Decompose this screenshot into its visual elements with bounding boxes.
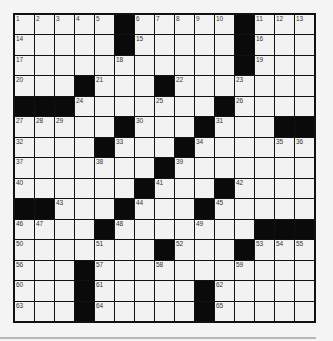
grid-cell[interactable] xyxy=(135,220,154,239)
grid-cell[interactable]: 2 xyxy=(35,15,54,34)
grid-cell[interactable]: 11 xyxy=(255,15,274,34)
grid-cell[interactable] xyxy=(115,281,134,300)
grid-cell[interactable] xyxy=(75,56,94,75)
grid-cell[interactable] xyxy=(215,261,234,280)
grid-cell[interactable] xyxy=(35,179,54,198)
grid-cell[interactable] xyxy=(275,76,294,95)
grid-cell[interactable] xyxy=(235,281,254,300)
grid-cell[interactable] xyxy=(255,261,274,280)
grid-cell[interactable] xyxy=(275,179,294,198)
grid-cell[interactable] xyxy=(155,199,174,218)
grid-cell[interactable]: 53 xyxy=(255,240,274,259)
grid-cell[interactable]: 41 xyxy=(155,179,174,198)
grid-cell[interactable] xyxy=(95,56,114,75)
grid-cell[interactable] xyxy=(295,35,314,54)
grid-cell[interactable] xyxy=(75,117,94,136)
grid-cell[interactable]: 50 xyxy=(15,240,34,259)
grid-cell[interactable] xyxy=(35,281,54,300)
grid-cell[interactable]: 34 xyxy=(195,138,214,157)
grid-cell[interactable] xyxy=(195,261,214,280)
grid-cell[interactable]: 15 xyxy=(135,35,154,54)
grid-cell[interactable]: 28 xyxy=(35,117,54,136)
grid-cell[interactable] xyxy=(175,302,194,321)
grid-cell[interactable] xyxy=(75,35,94,54)
grid-cell[interactable] xyxy=(155,138,174,157)
grid-cell[interactable] xyxy=(275,199,294,218)
grid-cell[interactable] xyxy=(295,302,314,321)
grid-cell[interactable] xyxy=(95,35,114,54)
grid-cell[interactable]: 26 xyxy=(235,97,254,116)
grid-cell[interactable]: 8 xyxy=(175,15,194,34)
grid-cell[interactable] xyxy=(195,76,214,95)
grid-cell[interactable] xyxy=(235,199,254,218)
grid-cell[interactable] xyxy=(115,97,134,116)
grid-cell[interactable] xyxy=(35,35,54,54)
grid-cell[interactable]: 30 xyxy=(135,117,154,136)
grid-cell[interactable]: 64 xyxy=(95,302,114,321)
grid-cell[interactable] xyxy=(175,199,194,218)
grid-cell[interactable] xyxy=(235,117,254,136)
grid-cell[interactable] xyxy=(115,76,134,95)
grid-cell[interactable] xyxy=(275,281,294,300)
grid-cell[interactable]: 19 xyxy=(255,56,274,75)
grid-cell[interactable] xyxy=(195,179,214,198)
grid-cell[interactable]: 18 xyxy=(115,56,134,75)
grid-cell[interactable]: 39 xyxy=(175,158,194,177)
grid-cell[interactable] xyxy=(155,302,174,321)
grid-cell[interactable] xyxy=(295,76,314,95)
grid-cell[interactable] xyxy=(255,158,274,177)
grid-cell[interactable] xyxy=(175,261,194,280)
grid-cell[interactable]: 63 xyxy=(15,302,34,321)
grid-cell[interactable]: 52 xyxy=(175,240,194,259)
grid-cell[interactable]: 40 xyxy=(15,179,34,198)
grid-cell[interactable]: 42 xyxy=(235,179,254,198)
grid-cell[interactable] xyxy=(215,220,234,239)
grid-cell[interactable]: 43 xyxy=(55,199,74,218)
grid-cell[interactable] xyxy=(195,240,214,259)
grid-cell[interactable]: 44 xyxy=(135,199,154,218)
grid-cell[interactable] xyxy=(255,117,274,136)
grid-cell[interactable] xyxy=(295,199,314,218)
grid-cell[interactable] xyxy=(255,138,274,157)
grid-cell[interactable] xyxy=(135,261,154,280)
grid-cell[interactable] xyxy=(135,281,154,300)
grid-cell[interactable]: 13 xyxy=(295,15,314,34)
grid-cell[interactable]: 37 xyxy=(15,158,34,177)
grid-cell[interactable] xyxy=(275,261,294,280)
grid-cell[interactable] xyxy=(55,261,74,280)
grid-cell[interactable]: 49 xyxy=(195,220,214,239)
grid-cell[interactable] xyxy=(255,179,274,198)
grid-cell[interactable] xyxy=(55,76,74,95)
grid-cell[interactable] xyxy=(55,240,74,259)
grid-cell[interactable] xyxy=(75,240,94,259)
grid-cell[interactable] xyxy=(155,56,174,75)
grid-cell[interactable] xyxy=(35,261,54,280)
grid-cell[interactable]: 32 xyxy=(15,138,34,157)
grid-cell[interactable] xyxy=(175,179,194,198)
grid-cell[interactable] xyxy=(95,199,114,218)
grid-cell[interactable]: 27 xyxy=(15,117,34,136)
grid-cell[interactable]: 5 xyxy=(95,15,114,34)
grid-cell[interactable]: 58 xyxy=(155,261,174,280)
grid-cell[interactable] xyxy=(155,220,174,239)
grid-cell[interactable]: 21 xyxy=(95,76,114,95)
grid-cell[interactable] xyxy=(115,302,134,321)
grid-cell[interactable] xyxy=(175,35,194,54)
grid-cell[interactable]: 31 xyxy=(215,117,234,136)
grid-cell[interactable] xyxy=(195,56,214,75)
grid-cell[interactable] xyxy=(275,158,294,177)
grid-cell[interactable] xyxy=(215,56,234,75)
grid-cell[interactable]: 12 xyxy=(275,15,294,34)
grid-cell[interactable] xyxy=(135,158,154,177)
grid-cell[interactable]: 20 xyxy=(15,76,34,95)
grid-cell[interactable] xyxy=(55,138,74,157)
grid-cell[interactable] xyxy=(295,56,314,75)
grid-cell[interactable]: 22 xyxy=(175,76,194,95)
grid-cell[interactable] xyxy=(255,76,274,95)
grid-cell[interactable] xyxy=(215,158,234,177)
grid-cell[interactable]: 3 xyxy=(55,15,74,34)
grid-cell[interactable] xyxy=(175,281,194,300)
grid-cell[interactable] xyxy=(275,35,294,54)
grid-cell[interactable] xyxy=(295,179,314,198)
grid-cell[interactable] xyxy=(195,97,214,116)
